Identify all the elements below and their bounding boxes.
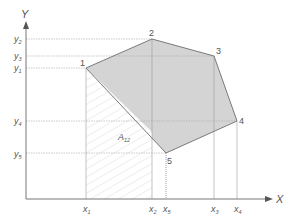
svg-text:y4: y4 bbox=[13, 116, 22, 127]
x-tick-labels: x1 x2 x5 x3 x4 bbox=[82, 204, 242, 215]
svg-text:y3: y3 bbox=[13, 51, 23, 62]
y-tick-labels: y2 y3 y1 y4 y5 bbox=[13, 34, 23, 160]
vertex-label-4: 4 bbox=[239, 116, 244, 126]
vertex-label-2: 2 bbox=[149, 28, 154, 38]
svg-text:x4: x4 bbox=[233, 204, 242, 215]
vertex-label-3: 3 bbox=[216, 46, 221, 56]
svg-text:y2: y2 bbox=[13, 34, 22, 45]
svg-text:y1: y1 bbox=[13, 63, 22, 74]
svg-text:x1: x1 bbox=[82, 204, 91, 215]
svg-text:y5: y5 bbox=[13, 149, 23, 160]
svg-text:x2: x2 bbox=[148, 204, 157, 215]
svg-text:x5: x5 bbox=[162, 204, 172, 215]
x-axis-arrow-icon bbox=[265, 196, 273, 202]
vertex-label-1: 1 bbox=[80, 58, 85, 68]
polygon-area-diagram: Y X y2 y3 y1 y4 y5 x1 x2 x5 x3 x4 1 2 3 … bbox=[0, 0, 288, 221]
vertex-label-5: 5 bbox=[167, 156, 172, 166]
svg-text:x3: x3 bbox=[210, 204, 220, 215]
y-axis-label: Y bbox=[21, 8, 29, 20]
x-axis-label: X bbox=[275, 193, 284, 205]
y-axis-arrow-icon bbox=[23, 21, 29, 29]
